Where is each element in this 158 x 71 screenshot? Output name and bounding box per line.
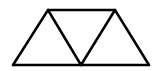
edge-bottom-middle-to-top-right [81,10,115,65]
edge-bottom-left-to-top-left [13,10,48,65]
edge-top-left-to-bottom-middle [48,10,81,65]
edge-top-right-to-bottom-right [115,10,149,65]
triangle-trapezoid-diagram [0,0,158,71]
